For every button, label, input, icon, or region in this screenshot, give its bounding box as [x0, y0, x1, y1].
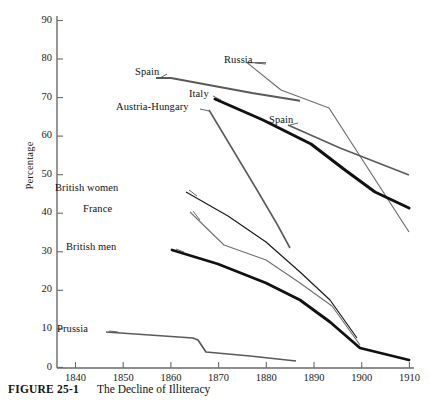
- line-chart-plot: [0, 0, 430, 409]
- x-tick-1890: 1890: [294, 372, 334, 383]
- x-tick-1870: 1870: [199, 372, 239, 383]
- y-tick-0: 0: [28, 361, 52, 372]
- x-tick-1880: 1880: [246, 372, 286, 383]
- y-tick-80: 80: [28, 52, 52, 63]
- y-axis-label: Percentage: [24, 111, 35, 221]
- series-label-prussia: Prussia: [57, 323, 88, 334]
- x-tick-1860: 1860: [151, 372, 191, 383]
- series-label-spain-top: Spain: [135, 66, 159, 77]
- x-tick-1910: 1910: [389, 372, 429, 383]
- y-tick-10: 10: [28, 322, 52, 333]
- y-tick-70: 70: [28, 91, 52, 102]
- series-line-spain-lower: [288, 125, 409, 175]
- series-line-italy: [215, 99, 409, 208]
- x-tick-1840: 1840: [56, 372, 96, 383]
- series-line-prussia: [106, 332, 296, 361]
- series-label-british-men: British men: [66, 241, 116, 252]
- series-line-russia: [247, 63, 409, 232]
- figure-caption: FIGURE 25-1The Decline of Illiteracy: [8, 383, 210, 395]
- y-tick-60: 60: [28, 129, 52, 140]
- x-tick-1850: 1850: [103, 372, 143, 383]
- series-label-austria-hungary: Austria-Hungary: [116, 101, 189, 112]
- series-label-france: France: [83, 203, 112, 214]
- y-axis-ticks: [57, 21, 63, 368]
- x-axis-ticks: [76, 362, 410, 368]
- y-tick-90: 90: [28, 14, 52, 25]
- series-label-spain-lower: Spain: [269, 114, 293, 125]
- series-label-british-women: British women: [55, 182, 118, 193]
- series-line-austria-hungary: [209, 110, 290, 248]
- series-line-spain-top: [156, 78, 300, 101]
- figure-title: The Decline of Illiteracy: [97, 383, 210, 395]
- series-label-russia: Russia: [224, 54, 253, 65]
- y-tick-30: 30: [28, 245, 52, 256]
- x-tick-1900: 1900: [342, 372, 382, 383]
- series-line-british-men: [172, 250, 409, 360]
- y-tick-50: 50: [28, 168, 52, 179]
- figure-number: FIGURE 25-1: [8, 383, 79, 395]
- figure-container: Percentage 90 80 70 60 50 40 30 20 10 0 …: [0, 0, 430, 409]
- y-tick-20: 20: [28, 283, 52, 294]
- series-label-italy: Italy: [189, 88, 209, 99]
- y-tick-40: 40: [28, 206, 52, 217]
